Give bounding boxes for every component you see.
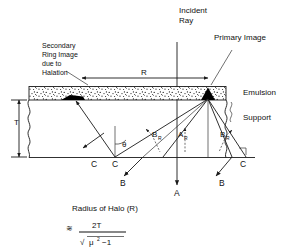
b-bottom-left-label: B [120,178,126,188]
secondary-label-line1: Secondary [42,42,76,50]
halation-diagram-figure: Incident Ray Primary Image Secondary Rin… [0,0,299,251]
c-far-left-label: C [91,159,97,169]
c-left-label: C [112,159,118,169]
formula-numerator: 2T [92,221,101,230]
reflected-ray-bundle-left [76,101,126,157]
formula-denom-exponent: 2 [97,236,100,242]
radius-symbol-label: R [141,68,147,77]
theta-angle-label: θ [122,140,127,149]
support-layer [28,100,255,158]
emulsion-label: Emulsion [243,88,276,97]
primary-image-label: Primary Image [214,33,267,42]
formula-approx-symbol: ≋ [66,224,73,233]
formula-radical: √ [80,238,85,247]
thickness-symbol-label: T [14,118,19,127]
emulsion-layer [29,87,226,101]
secondary-label-line4: Halation [42,69,68,76]
b-r-right-label: B [220,130,225,139]
primary-image-leader [211,50,232,85]
halo-radius-formula: Radius of Halo (R) ≋ 2T √ μ 2 −1 [66,204,138,247]
thickness-dimension [11,100,27,157]
b-r-right-subscript: R [226,135,230,141]
support-brace [230,102,232,122]
b-r-left-label: B [152,130,157,139]
secondary-label-line3: due to [42,60,62,67]
incident-ray-label-line2: Ray [179,16,193,25]
formula-denom-tail: −1 [102,238,112,247]
a-r-subscript: R [184,135,188,141]
support-label: Support [243,113,272,122]
secondary-label-line2: Ring Image [42,51,78,59]
c-right-label: C [240,159,246,169]
formula-caption: Radius of Halo (R) [72,204,138,213]
diagram-canvas: Incident Ray Primary Image Secondary Rin… [0,0,299,251]
incident-ray-label-line1: Incident [179,6,208,15]
b-r-left-subscript: R [158,135,162,141]
formula-denom-mu: μ [89,238,94,247]
b-bottom-right-label: B [219,178,225,188]
a-bottom-label: A [174,188,180,198]
